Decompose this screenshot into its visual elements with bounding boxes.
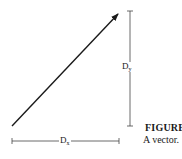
dx-label: Dx: [59, 136, 71, 146]
dy-label-sub: y: [129, 66, 132, 72]
dx-label-sub: x: [67, 140, 70, 146]
vector-arrow: [12, 14, 118, 126]
figure-caption: A vector.: [143, 134, 179, 145]
figure-title: FIGURE: [145, 122, 182, 133]
dy-label: Dy: [121, 62, 133, 72]
